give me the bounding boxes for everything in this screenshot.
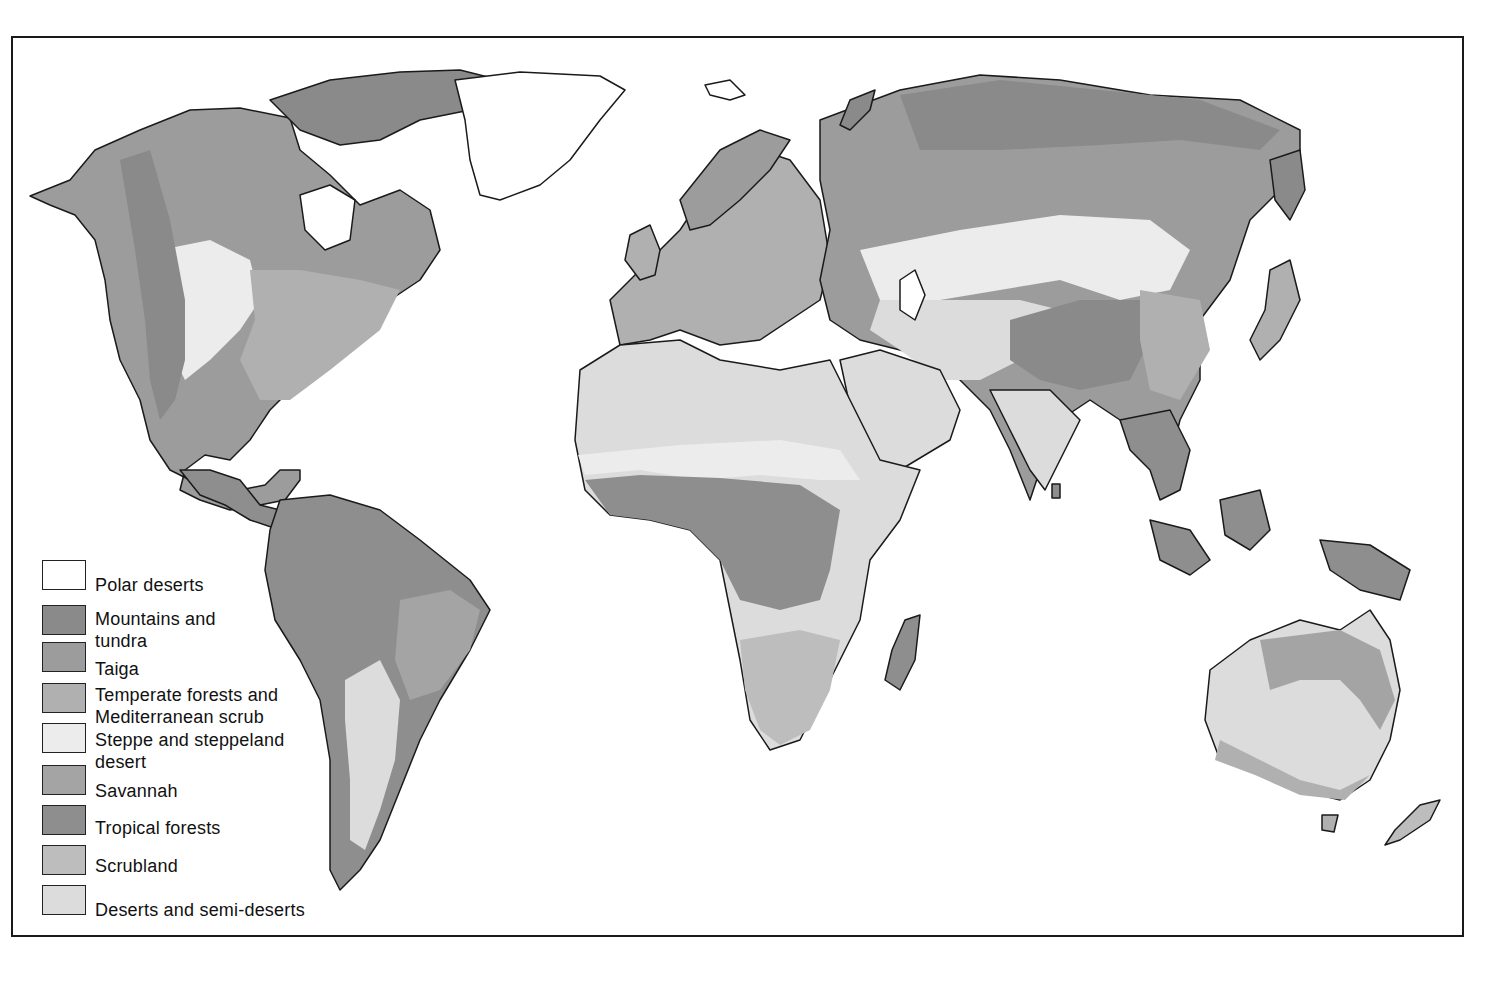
- svalbard: [705, 80, 745, 100]
- indonesia: [1150, 490, 1270, 575]
- legend-swatch: [42, 683, 86, 713]
- new-guinea: [1320, 540, 1410, 600]
- sa-savannah: [395, 590, 480, 700]
- legend-label: Savannah: [95, 780, 178, 802]
- legend-swatch: [42, 805, 86, 835]
- legend-swatch: [42, 605, 86, 635]
- asia-tundra: [900, 80, 1280, 150]
- na-temperate: [240, 270, 400, 400]
- madagascar: [885, 615, 920, 690]
- legend-label-cont: Mediterranean scrub: [95, 706, 264, 728]
- legend-swatch: [42, 723, 86, 753]
- legend-label: Mountains and: [95, 608, 216, 630]
- legend-label: Scrubland: [95, 855, 178, 877]
- legend-swatch: [42, 885, 86, 915]
- legend-label: Taiga: [95, 658, 139, 680]
- sa-scrub: [345, 660, 400, 850]
- legend-label: Tropical forests: [95, 817, 221, 839]
- legend-swatch: [42, 765, 86, 795]
- new-zealand: [1385, 800, 1440, 845]
- tasmania: [1322, 815, 1338, 832]
- china-temperate: [1140, 290, 1210, 400]
- sri-lanka: [1052, 484, 1060, 498]
- legend-label-cont: desert: [95, 751, 146, 773]
- africa-tropical: [585, 475, 840, 610]
- legend-swatch: [42, 560, 86, 590]
- japan: [1250, 260, 1300, 360]
- greenland: [455, 72, 625, 200]
- legend-label: Steppe and steppeland: [95, 729, 284, 751]
- legend-swatch: [42, 845, 86, 875]
- kamchatka: [1270, 150, 1305, 220]
- british-isles: [625, 225, 660, 280]
- legend-label: Temperate forests and: [95, 684, 278, 706]
- legend-swatch: [42, 642, 86, 672]
- legend-label-cont: tundra: [95, 630, 147, 652]
- legend-label: Deserts and semi-deserts: [95, 899, 305, 921]
- world-biome-map: [0, 0, 1506, 981]
- legend-label: Polar deserts: [95, 574, 204, 596]
